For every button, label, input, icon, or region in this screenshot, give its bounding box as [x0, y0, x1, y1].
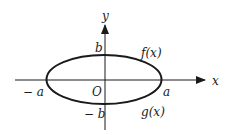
g-of-x-label: g(x): [141, 105, 165, 119]
neg-a-label: − a: [23, 85, 44, 99]
a-label: a: [163, 85, 170, 99]
ellipse-diagram: y x O b − b a − a f(x) g(x): [0, 0, 233, 135]
b-label: b: [95, 41, 103, 55]
x-axis-label: x: [212, 74, 219, 88]
y-axis-label: y: [101, 9, 109, 23]
origin-label: O: [92, 85, 102, 99]
f-of-x-label: f(x): [140, 46, 162, 60]
neg-b-label: − b: [84, 107, 106, 121]
